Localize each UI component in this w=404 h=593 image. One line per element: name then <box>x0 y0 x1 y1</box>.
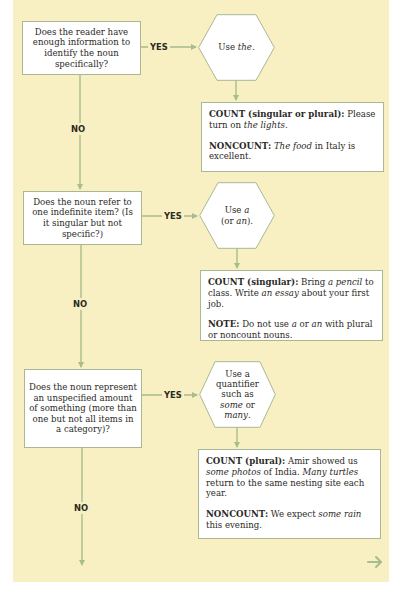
example-count: COUNT (singular or plural): Please turn … <box>209 109 377 131</box>
question-box-3: Does the noun represent an unspecified a… <box>24 369 142 448</box>
no-label: NO <box>73 502 89 514</box>
yes-label: YES <box>162 390 184 400</box>
arrow-right-icon[interactable] <box>366 555 384 569</box>
example-box-1: COUNT (singular or plural): Please turn … <box>201 102 384 172</box>
question-text: Does the noun represent an unspecified a… <box>29 382 137 435</box>
example-noncount: NONCOUNT: The food in Italy is excellent… <box>209 141 377 163</box>
question-text: Does the reader have enough information … <box>27 27 136 69</box>
question-box-2: Does the noun refer to one indefinite it… <box>23 191 142 245</box>
example-noncount: NONCOUNT: We expect some rain this eveni… <box>206 509 374 531</box>
no-label: NO <box>72 298 88 310</box>
example-box-2: COUNT (singular): Bring a pencil to clas… <box>200 270 383 341</box>
yes-label: YES <box>148 42 170 52</box>
example-note: NOTE: Do not use a or an with plural or … <box>208 319 376 341</box>
action-hexagon-1: Use the. <box>198 14 275 81</box>
example-count: COUNT (singular): Bring a pencil to clas… <box>208 277 376 309</box>
example-box-3: COUNT (plural): Amir showed us some phot… <box>198 449 381 539</box>
question-text: Does the noun refer to one indefinite it… <box>28 197 137 239</box>
yes-label: YES <box>162 211 184 221</box>
question-box-1: Does the reader have enough information … <box>22 21 141 75</box>
action-hexagon-2: Use a(or an). <box>199 182 275 249</box>
no-label: NO <box>70 123 86 135</box>
action-hexagon-3: Use a quantifier such as some or many. <box>199 361 276 428</box>
example-count: COUNT (plural): Amir showed us some phot… <box>206 456 374 499</box>
